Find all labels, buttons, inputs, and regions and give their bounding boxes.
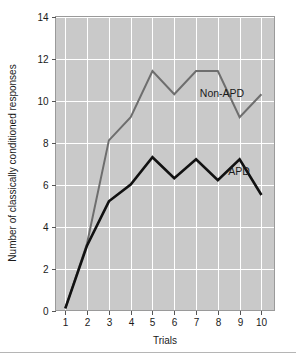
- y-axis-tick-label: 12: [37, 54, 49, 65]
- line-chart: 02468101214 12345678910 Non-APDAPD Trial…: [0, 0, 296, 363]
- x-axis-title: Trials: [153, 335, 177, 346]
- y-axis-tick-label: 0: [43, 306, 49, 317]
- figure-container: 02468101214 12345678910 Non-APDAPD Trial…: [0, 0, 296, 363]
- y-axis-tick-label: 2: [43, 264, 49, 275]
- y-axis-tick-label: 8: [43, 138, 49, 149]
- y-axis-tick-label: 10: [37, 96, 49, 107]
- y-axis-tick-label: 14: [37, 12, 49, 23]
- x-axis-tick-label: 6: [172, 317, 178, 328]
- y-axis-title: Number of classically conditioned respon…: [7, 64, 18, 261]
- series-label-non-apd: Non-APD: [200, 87, 245, 99]
- x-axis-tick-label: 1: [63, 317, 69, 328]
- x-axis-tick-label: 5: [150, 317, 156, 328]
- x-axis-tick-label: 4: [129, 317, 135, 328]
- x-axis-tick-label: 10: [256, 317, 268, 328]
- x-axis-tick-label: 9: [238, 317, 244, 328]
- series-label-apd: APD: [228, 165, 250, 177]
- x-axis-tick-label: 2: [85, 317, 91, 328]
- x-axis-tick-label: 3: [107, 317, 113, 328]
- x-axis-tick-label: 7: [194, 317, 200, 328]
- x-axis-tick-label: 8: [216, 317, 222, 328]
- y-axis-tick-label: 4: [43, 222, 49, 233]
- y-axis-tick-label: 6: [43, 180, 49, 191]
